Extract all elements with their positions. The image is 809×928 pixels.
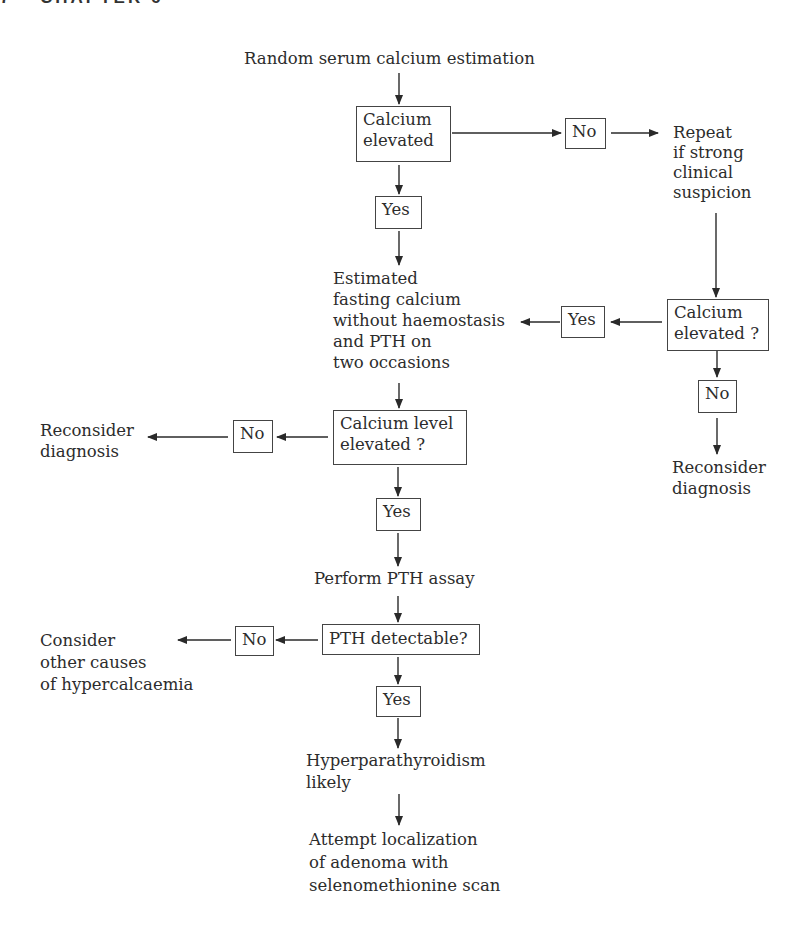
attempt-localization-node: Attempt localization of adenoma with sel… [309,828,500,897]
q2-yes-label: Yes [561,306,605,338]
q2-line2: elevated ? [674,323,762,344]
localize-line1: Attempt localization [309,828,500,851]
fasting-line2: fasting calcium [333,289,505,310]
q1-yes-label: Yes [375,196,422,229]
q1-yes-text: Yes [382,200,410,219]
repeat-node: Repeat if strong clinical suspicion [673,123,751,203]
reconsider-right-line2: diagnosis [672,478,766,499]
q3-no-text: No [240,424,264,443]
q1-line1: Calcium [363,109,444,130]
reconsider-diagnosis-right: Reconsider diagnosis [672,457,766,499]
fasting-line4: and PTH on [333,331,505,352]
reconsider-left-line2: diagnosis [40,441,134,462]
q2-no-text: No [705,384,729,403]
q4-yes-text: Yes [383,690,411,709]
perform-pth-assay-node: Perform PTH assay [314,568,475,589]
q4-text: PTH detectable? [329,629,468,648]
repeat-line2: if strong [673,143,751,163]
fasting-calcium-node: Estimated fasting calcium without haemos… [333,268,505,373]
reconsider-right-line1: Reconsider [672,457,766,478]
decision-calcium-elevated-repeat: Calcium elevated ? [667,299,769,351]
fasting-line5: two occasions [333,352,505,373]
assay-text: Perform PTH assay [314,569,475,588]
q2-line1: Calcium [674,302,762,323]
q3-line2: elevated ? [340,434,460,455]
decision-pth-detectable: PTH detectable? [322,624,480,655]
q1-line2: elevated [363,130,444,151]
reconsider-left-line1: Reconsider [40,420,134,441]
q4-no-text: No [242,630,266,649]
other-causes-line3: of hypercalcaemia [40,674,193,696]
q2-yes-text: Yes [568,310,596,329]
repeat-line4: suspicion [673,183,751,203]
q4-yes-label: Yes [376,686,421,717]
q2-no-label: No [698,380,737,413]
repeat-line1: Repeat [673,123,751,143]
localize-line2: of adenoma with [309,851,500,874]
reconsider-diagnosis-left: Reconsider diagnosis [40,420,134,462]
q3-no-label: No [233,420,273,453]
consider-other-causes-node: Consider other causes of hypercalcaemia [40,630,193,696]
fasting-line1: Estimated [333,268,505,289]
other-causes-line2: other causes [40,652,193,674]
fasting-line3: without haemostasis [333,310,505,331]
q3-yes-text: Yes [383,502,411,521]
hyper-line2: likely [306,772,486,794]
q3-line1: Calcium level [340,413,460,434]
start-node: Random serum calcium estimation [244,48,535,69]
q1-no-text: No [572,122,596,141]
other-causes-line1: Consider [40,630,193,652]
repeat-line3: clinical [673,163,751,183]
q4-no-label: No [235,626,274,656]
q1-no-label: No [565,118,606,149]
localize-line3: selenomethionine scan [309,874,500,897]
hyperparathyroidism-likely-node: Hyperparathyroidism likely [306,750,486,794]
start-text: Random serum calcium estimation [244,49,535,68]
hyper-line1: Hyperparathyroidism [306,750,486,772]
decision-calcium-elevated: Calcium elevated [356,106,451,162]
decision-calcium-level-elevated: Calcium level elevated ? [333,410,467,465]
q3-yes-label: Yes [376,498,421,531]
